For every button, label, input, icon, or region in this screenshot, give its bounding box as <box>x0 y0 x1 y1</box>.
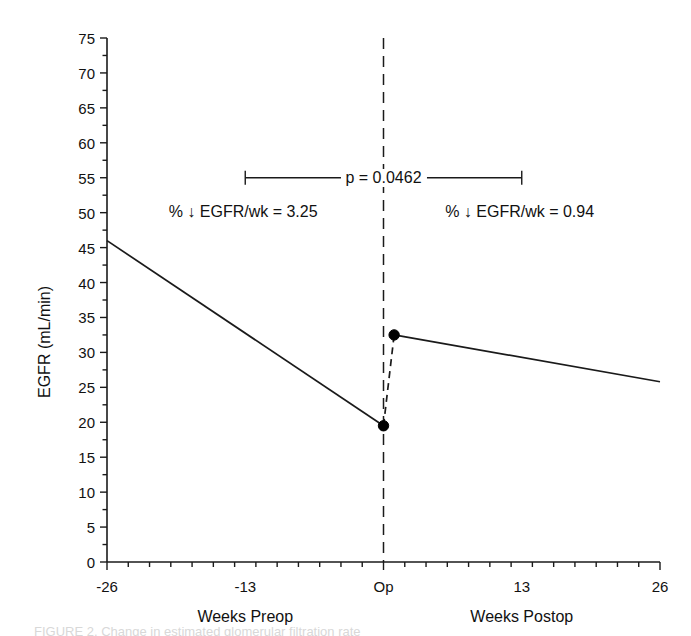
y-tick-label: 5 <box>63 519 95 536</box>
y-tick-label: 35 <box>63 309 95 326</box>
y-tick-label: 55 <box>63 169 95 186</box>
series-preoperative-egfr-slope <box>107 241 384 426</box>
y-tick-label: 45 <box>63 239 95 256</box>
y-tick-label: 60 <box>63 134 95 151</box>
figure-container: 051015202530354045505560657075-26-13Op13… <box>0 0 691 636</box>
y-tick-label: 40 <box>63 274 95 291</box>
series-perioperative-change <box>384 335 395 426</box>
data-point-preop-endpoint <box>378 421 388 431</box>
chart-canvas <box>0 0 691 636</box>
y-tick-label: 0 <box>63 554 95 571</box>
annotation-postop-rate: % ↓ EGFR/wk = 0.94 <box>445 203 594 221</box>
x-tick-label: -13 <box>234 578 256 595</box>
data-point-postop-startpoint <box>389 330 399 340</box>
y-tick-label: 20 <box>63 414 95 431</box>
x-tick-label: 13 <box>513 578 530 595</box>
y-tick-label: 10 <box>63 484 95 501</box>
x-tick-label: -26 <box>96 578 118 595</box>
x-tick-label: 26 <box>652 578 669 595</box>
p-value-label: p = 0.0462 <box>340 169 426 187</box>
annotation-preop-rate: % ↓ EGFR/wk = 3.25 <box>169 203 318 221</box>
y-tick-label: 65 <box>63 99 95 116</box>
y-tick-label: 30 <box>63 344 95 361</box>
series-postoperative-egfr-slope <box>394 335 660 382</box>
y-tick-label: 70 <box>63 64 95 81</box>
figure-caption-partial: FIGURE 2. Change in estimated glomerular… <box>0 624 691 636</box>
y-tick-label: 50 <box>63 204 95 221</box>
y-axis-title: EGFR (mL/min) <box>36 286 54 398</box>
marker-group <box>378 330 399 431</box>
y-tick-label: 25 <box>63 379 95 396</box>
axes-group <box>100 38 660 570</box>
y-tick-label: 15 <box>63 449 95 466</box>
x-tick-label: Op <box>373 578 393 595</box>
y-tick-label: 75 <box>63 30 95 47</box>
